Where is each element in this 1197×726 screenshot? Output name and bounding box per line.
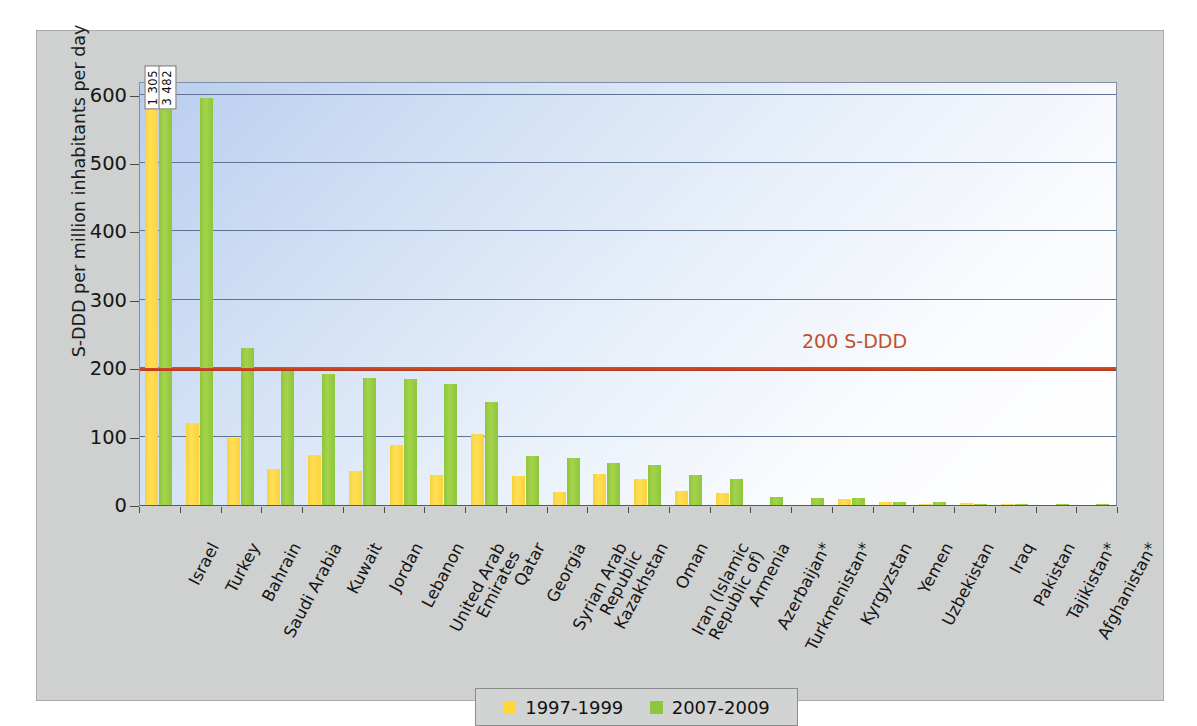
legend-label: 1997-1999	[525, 697, 623, 718]
bar-2007-2009	[1096, 504, 1109, 505]
y-tick-mark-300	[130, 301, 139, 302]
x-tick-mark	[139, 507, 140, 513]
bar-2007-2009	[200, 98, 213, 505]
category-label-line: Bahrain	[258, 540, 305, 605]
x-tick-mark	[1076, 507, 1077, 513]
bar-2007-2009	[974, 504, 987, 505]
x-tick-mark	[873, 507, 874, 513]
chart-page: S-DDD per million inhabitants per day 01…	[0, 0, 1197, 726]
bar-2007-2009	[485, 402, 498, 505]
bar-1997-1999	[471, 434, 484, 505]
category-label: Israel	[186, 540, 222, 588]
bar-1997-1999	[634, 479, 647, 505]
category-label-line: Israel	[185, 540, 223, 589]
x-tick-mark	[995, 507, 996, 513]
bar-2007-2009	[648, 465, 661, 505]
category-label-line: Yemen	[914, 540, 956, 597]
x-tick-mark	[1117, 507, 1118, 513]
bar-1997-1999	[879, 502, 892, 505]
threshold-label: 200 S-DDD	[802, 330, 907, 352]
category-label: Yemen	[915, 540, 956, 596]
bar-group	[838, 83, 874, 505]
bar-2007-2009	[1015, 504, 1028, 505]
bar-1997-1999	[919, 504, 932, 505]
bar-1997-1999	[267, 469, 280, 505]
bar-group	[756, 83, 792, 505]
y-tick-mark-400	[130, 232, 139, 233]
bar-group	[919, 83, 955, 505]
bar-2007-2009	[322, 374, 335, 505]
x-tick-mark	[913, 507, 914, 513]
bar-1997-1999	[390, 445, 403, 505]
bar-group	[716, 83, 752, 505]
bar-2007-2009	[770, 497, 783, 505]
bar-group	[349, 83, 385, 505]
bar-1997-1999	[1001, 504, 1014, 505]
bar-group	[186, 83, 222, 505]
y-tick-label-100: 100	[81, 428, 127, 448]
bar-1997-1999	[675, 491, 688, 505]
bar-1997-1999	[308, 455, 321, 505]
bar-2007-2009	[567, 458, 580, 505]
bar-1997-1999	[593, 474, 606, 505]
bar-1997-1999	[186, 423, 199, 505]
bar-1997-1999	[227, 438, 240, 505]
bar-1997-1999	[512, 476, 525, 505]
bar-1997-1999	[838, 499, 851, 505]
legend-label: 2007-2009	[672, 697, 770, 718]
bar-group	[145, 83, 181, 505]
bar-group	[1042, 83, 1078, 505]
category-label-line: Turkey	[222, 540, 264, 596]
y-tick-label-300: 300	[81, 291, 127, 311]
bar-1997-1999	[430, 475, 443, 505]
bar-group	[879, 83, 915, 505]
bar-group	[797, 83, 833, 505]
x-tick-mark	[669, 507, 670, 513]
chart-legend: 1997-19992007-2009	[475, 688, 798, 726]
category-label: Georgia	[544, 540, 590, 605]
bar-1997-1999	[716, 493, 729, 505]
x-tick-mark	[261, 507, 262, 513]
category-label-line: Jordan	[386, 540, 427, 595]
bar-group	[308, 83, 344, 505]
bar-group	[634, 83, 670, 505]
y-tick-label-600: 600	[81, 86, 127, 106]
category-label-line: Kuwait	[344, 540, 387, 598]
bar-2007-2009	[241, 348, 254, 505]
x-tick-mark	[791, 507, 792, 513]
x-tick-mark	[465, 507, 466, 513]
x-tick-mark	[587, 507, 588, 513]
bar-2007-2009	[281, 368, 294, 505]
x-tick-mark	[750, 507, 751, 513]
bar-2007-2009	[689, 475, 702, 505]
chart-frame: S-DDD per million inhabitants per day 01…	[36, 30, 1164, 701]
bar-2007-2009	[933, 502, 946, 505]
bar-2007-2009	[730, 479, 743, 505]
category-label-line: Iraq	[1006, 540, 1038, 577]
bar-group	[960, 83, 996, 505]
y-tick-mark-500	[130, 164, 139, 165]
bar-2007-2009	[159, 81, 172, 505]
bar-group	[512, 83, 548, 505]
bar-2007-2009	[363, 378, 376, 505]
category-label: Iraq	[1007, 540, 1037, 577]
category-label-line: Oman	[672, 540, 712, 593]
y-tick-mark-600	[130, 96, 139, 97]
bar-group	[1001, 83, 1037, 505]
bar-group	[553, 83, 589, 505]
x-tick-mark	[384, 507, 385, 513]
bar-1997-1999	[145, 81, 158, 505]
threshold-line-200-sddd	[140, 368, 1116, 371]
bar-group	[430, 83, 466, 505]
x-tick-mark	[1036, 507, 1037, 513]
y-tick-label-0: 0	[81, 496, 127, 516]
x-tick-mark	[547, 507, 548, 513]
bar-2007-2009	[1056, 504, 1069, 505]
category-label: Oman	[673, 540, 712, 592]
bar-group	[1082, 83, 1118, 505]
y-tick-mark-100	[130, 438, 139, 439]
bar-2007-2009	[811, 498, 824, 505]
bar-2007-2009	[444, 384, 457, 505]
y-tick-label-400: 400	[81, 222, 127, 242]
bar-group	[267, 83, 303, 505]
